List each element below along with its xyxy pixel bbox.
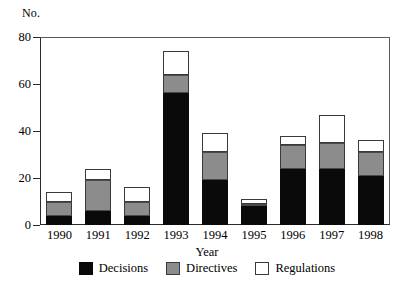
bar-segment-decisions	[280, 169, 306, 225]
y-tick-mark	[33, 178, 40, 179]
y-tick-mark	[33, 225, 40, 226]
bar-segment-regulations	[202, 133, 228, 152]
bar-segment-regulations	[85, 169, 111, 181]
y-tick-label: 0	[0, 219, 31, 231]
bar-stack	[46, 192, 72, 225]
chart-legend: DecisionsDirectivesRegulations	[0, 262, 414, 275]
bar-segment-decisions	[85, 211, 111, 225]
bar-segment-decisions	[46, 216, 72, 225]
bar-segment-regulations	[46, 192, 72, 201]
y-tick-label: 40	[0, 125, 31, 137]
bar-segment-regulations	[319, 115, 345, 143]
bar-segment-regulations	[163, 51, 189, 75]
y-tick-mark	[33, 131, 40, 132]
y-axis-title: No.	[22, 7, 40, 20]
bars-layer	[40, 37, 390, 225]
bar-segment-decisions	[124, 216, 150, 225]
bar-segment-directives	[358, 152, 384, 176]
bar-segment-decisions	[358, 176, 384, 225]
bar-stack	[241, 199, 267, 225]
bar-segment-decisions	[319, 169, 345, 225]
legend-item-label: Regulations	[275, 262, 335, 275]
bar-segment-decisions	[202, 180, 228, 225]
x-tick-label: 1998	[348, 228, 394, 242]
legend-item-label: Directives	[186, 262, 237, 275]
bar-stack	[202, 133, 228, 225]
bar-segment-directives	[280, 145, 306, 169]
bar-stack	[124, 187, 150, 225]
bar-segment-directives	[319, 143, 345, 169]
bar-segment-regulations	[124, 187, 150, 201]
bar-stack	[85, 169, 111, 225]
bar-stack	[280, 136, 306, 225]
bar-stack	[319, 115, 345, 225]
bar-segment-directives	[163, 75, 189, 94]
y-tick-label: 60	[0, 78, 31, 90]
stacked-bar-chart: No. 020406080 19901991199219931994199519…	[0, 0, 414, 301]
y-tick-label: 20	[0, 172, 31, 184]
legend-item-directives[interactable]: Directives	[166, 262, 237, 275]
legend-item-label: Decisions	[99, 262, 148, 275]
gray-square-swatch	[166, 262, 180, 275]
bar-segment-directives	[46, 202, 72, 216]
bar-segment-decisions	[241, 206, 267, 225]
y-tick-mark	[33, 37, 40, 38]
bar-segment-directives	[202, 152, 228, 180]
legend-item-decisions[interactable]: Decisions	[79, 262, 148, 275]
x-axis-title: Year	[0, 245, 414, 259]
bar-segment-decisions	[163, 93, 189, 225]
bar-segment-regulations	[280, 136, 306, 145]
legend-item-regulations[interactable]: Regulations	[255, 262, 335, 275]
black-square-swatch	[79, 262, 93, 275]
bar-segment-regulations	[358, 140, 384, 152]
bar-segment-directives	[124, 202, 150, 216]
bar-segment-directives	[85, 180, 111, 211]
bar-stack	[163, 51, 189, 225]
y-tick-label: 80	[0, 31, 31, 43]
white-square-swatch	[255, 262, 269, 275]
bar-stack	[358, 140, 384, 225]
y-tick-mark	[33, 84, 40, 85]
